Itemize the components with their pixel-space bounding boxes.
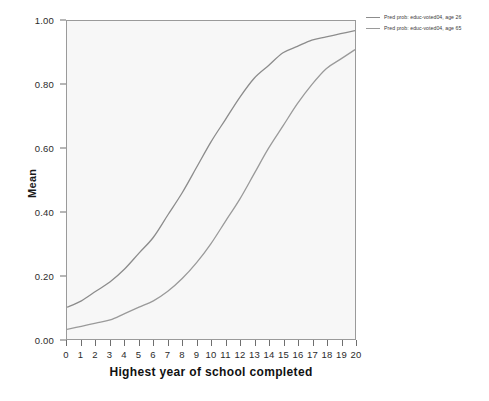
x-tick-label: 9 xyxy=(194,349,199,360)
legend-line-icon xyxy=(366,17,380,18)
x-tick-mark xyxy=(182,340,183,346)
legend-item-label: Pred prob: educ-voted04, age 26 xyxy=(384,13,461,22)
x-tick-mark xyxy=(342,340,343,346)
x-tick-mark xyxy=(240,340,241,346)
x-tick-mark xyxy=(356,340,357,346)
x-tick-mark xyxy=(124,340,125,346)
x-tick-label: 1 xyxy=(78,349,83,360)
x-tick-mark xyxy=(110,340,111,346)
x-tick-mark xyxy=(284,340,285,346)
x-tick-label: 17 xyxy=(307,349,318,360)
x-tick-mark xyxy=(168,340,169,346)
x-tick-label: 4 xyxy=(121,349,126,360)
x-tick-mark xyxy=(211,340,212,346)
x-tick-mark xyxy=(298,340,299,346)
x-tick-label: 3 xyxy=(107,349,112,360)
legend-line-icon xyxy=(366,28,380,29)
y-tick-label: 0.60 xyxy=(35,143,54,154)
y-tick-label: 0.80 xyxy=(35,79,54,90)
legend-item-label: Pred prob: educ-voted04, age 65 xyxy=(384,24,461,33)
y-tick-label: 0.20 xyxy=(35,271,54,282)
x-tick-label: 16 xyxy=(293,349,304,360)
series-line-1 xyxy=(67,31,355,308)
x-tick-label: 10 xyxy=(206,349,217,360)
y-tick-label: 0.40 xyxy=(35,207,54,218)
x-tick-label: 12 xyxy=(235,349,246,360)
x-tick-label: 19 xyxy=(336,349,347,360)
x-axis-tick-labels: 01234567891011121314151617181920 xyxy=(66,340,356,364)
x-tick-mark xyxy=(66,340,67,346)
x-tick-label: 13 xyxy=(249,349,260,360)
legend: Pred prob: educ-voted04, age 26Pred prob… xyxy=(366,13,486,35)
x-tick-label: 8 xyxy=(179,349,184,360)
x-tick-label: 0 xyxy=(63,349,68,360)
legend-item: Pred prob: educ-voted04, age 65 xyxy=(366,24,486,33)
x-tick-label: 14 xyxy=(264,349,275,360)
plot-area xyxy=(66,20,356,340)
chart-container: Mean 0.000.200.400.600.801.00 0123456789… xyxy=(0,0,489,401)
x-tick-label: 18 xyxy=(322,349,333,360)
x-axis-title: Highest year of school completed xyxy=(66,365,356,379)
x-tick-label: 11 xyxy=(220,349,230,360)
x-tick-mark xyxy=(95,340,96,346)
x-tick-mark xyxy=(139,340,140,346)
x-tick-label: 5 xyxy=(136,349,141,360)
x-tick-label: 7 xyxy=(165,349,170,360)
x-tick-mark xyxy=(197,340,198,346)
x-tick-mark xyxy=(226,340,227,346)
legend-item: Pred prob: educ-voted04, age 26 xyxy=(366,13,486,22)
x-tick-mark xyxy=(153,340,154,346)
x-tick-mark xyxy=(269,340,270,346)
x-tick-label: 20 xyxy=(351,349,362,360)
y-axis-tick-labels: 0.000.200.400.600.801.00 xyxy=(0,20,60,340)
x-tick-label: 15 xyxy=(278,349,289,360)
y-tick-label: 0.00 xyxy=(35,335,54,346)
series-line-2 xyxy=(67,50,355,330)
plot-lines-svg xyxy=(67,21,355,339)
x-tick-mark xyxy=(255,340,256,346)
x-tick-mark xyxy=(313,340,314,346)
x-tick-label: 2 xyxy=(92,349,97,360)
x-tick-label: 6 xyxy=(150,349,155,360)
y-tick-label: 1.00 xyxy=(35,15,54,26)
x-tick-mark xyxy=(327,340,328,346)
x-tick-mark xyxy=(81,340,82,346)
series-group xyxy=(67,31,355,330)
